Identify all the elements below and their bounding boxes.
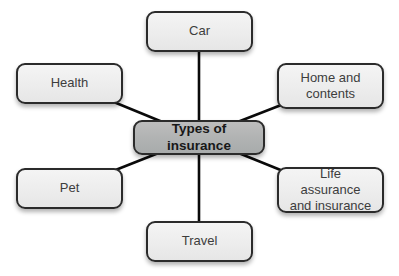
node-label: Life assurance and insurance — [289, 166, 372, 215]
insurance-diagram: Car Health Home and contents Types of in… — [0, 0, 399, 276]
node-pet: Pet — [16, 168, 123, 209]
node-travel: Travel — [146, 221, 253, 262]
center-node-label: Types of insurance — [145, 121, 253, 155]
node-car: Car — [146, 11, 253, 52]
node-label: Travel — [182, 233, 218, 249]
node-label: Health — [51, 75, 89, 91]
node-label: Car — [189, 23, 210, 39]
node-health: Health — [16, 63, 123, 104]
node-life-assurance-and-insurance: Life assurance and insurance — [277, 167, 384, 213]
node-label: Home and contents — [289, 70, 372, 103]
node-label: Pet — [60, 180, 80, 196]
node-home-and-contents: Home and contents — [277, 63, 384, 109]
center-node-types-of-insurance: Types of insurance — [133, 120, 265, 155]
